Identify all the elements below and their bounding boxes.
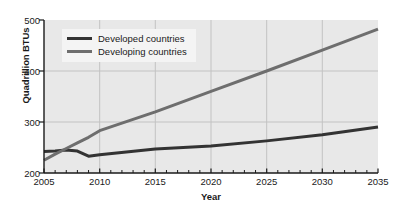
x-tick-2025: 2025 [245,177,289,187]
legend-label-developing: Developing countries [98,47,187,57]
chart-figure: 500 400 300 200 2005 2010 2015 2020 2025… [0,0,402,212]
x-tick-2010: 2010 [78,177,122,187]
legend-label-developed: Developed countries [98,34,185,44]
y-axis-title: Quadrillion BTUs [20,0,31,136]
x-axis-title: Year [44,191,378,202]
x-tick-2035: 2035 [356,177,400,187]
legend-item-developed[interactable]: Developed countries [67,32,191,45]
x-axis-tick-labels: 2005 2010 2015 2020 2025 2030 2035 [0,0,402,212]
legend-item-developing[interactable]: Developing countries [67,45,191,58]
x-tick-2005: 2005 [22,177,66,187]
x-tick-2015: 2015 [133,177,177,187]
legend-swatch-developed [67,37,92,40]
x-tick-2030: 2030 [300,177,344,187]
x-tick-2020: 2020 [189,177,233,187]
chart-legend: Developed countries Developing countries [62,29,196,62]
legend-swatch-developing [67,50,92,53]
